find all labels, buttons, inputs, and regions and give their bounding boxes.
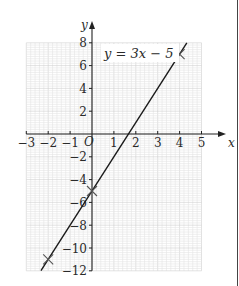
equation-label: y = 3x − 5 <box>103 46 174 61</box>
y-tick-label: 6 <box>79 59 87 73</box>
page-border <box>237 0 238 286</box>
x-tick-label: −3 <box>17 136 35 150</box>
y-tick-label: −2 <box>69 150 87 164</box>
y-tick-label: −10 <box>62 242 87 256</box>
x-tick-label: 5 <box>198 136 206 150</box>
y-tick-label: −4 <box>69 173 87 187</box>
x-tick-label: −1 <box>61 136 79 150</box>
x-tick-label: 4 <box>176 136 184 150</box>
y-axis-label: y <box>80 18 88 32</box>
y-axis-arrow-icon <box>89 21 95 29</box>
origin-label: O <box>84 135 94 149</box>
x-axis-label: x <box>228 136 235 150</box>
y-tick-label: 8 <box>79 36 87 50</box>
y-tick-label: −8 <box>69 219 87 233</box>
x-tick-label: 1 <box>110 136 118 150</box>
y-tick-label: 2 <box>79 105 87 119</box>
line-chart: −3−2−1123458642−2−4−6−8−10−12Oxyy = 3x −… <box>0 0 239 286</box>
x-tick-label: 2 <box>132 136 140 150</box>
y-tick-label: 4 <box>79 82 87 96</box>
y-tick-label: −12 <box>62 264 87 278</box>
x-axis-arrow-icon <box>218 131 226 137</box>
x-tick-label: 3 <box>154 136 162 150</box>
x-tick-label: −2 <box>39 136 57 150</box>
